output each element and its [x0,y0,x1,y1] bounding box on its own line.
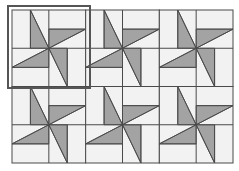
quilt-block[interactable] [12,87,86,164]
quilt-block[interactable] [86,10,160,87]
quilt-blocks [12,10,233,163]
quilt-block[interactable] [159,87,233,164]
quilt-block[interactable] [159,10,233,87]
quilt-block[interactable] [86,87,160,164]
quilt-block[interactable] [12,10,86,87]
quilt-diagram [0,0,239,171]
